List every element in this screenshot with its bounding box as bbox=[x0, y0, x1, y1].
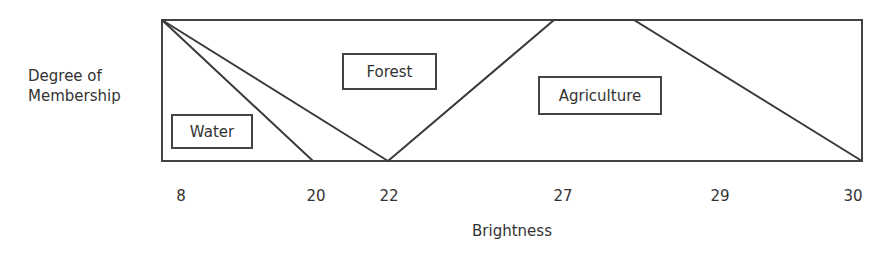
agriculture-label-box: Agriculture bbox=[538, 76, 662, 115]
forest-label: Forest bbox=[366, 63, 412, 81]
x-tick-29: 29 bbox=[710, 187, 729, 205]
x-tick-30: 30 bbox=[843, 187, 862, 205]
x-tick-27: 27 bbox=[553, 187, 572, 205]
x-tick-22: 22 bbox=[379, 187, 398, 205]
membership-plot bbox=[0, 0, 889, 260]
water-label: Water bbox=[190, 123, 234, 141]
plot-frame bbox=[162, 20, 862, 161]
forest-label-box: Forest bbox=[342, 53, 437, 90]
agriculture-label: Agriculture bbox=[559, 87, 642, 105]
x-tick-8: 8 bbox=[176, 187, 186, 205]
x-axis-label: Brightness bbox=[472, 222, 552, 240]
water-label-box: Water bbox=[171, 114, 253, 149]
x-tick-20: 20 bbox=[306, 187, 325, 205]
